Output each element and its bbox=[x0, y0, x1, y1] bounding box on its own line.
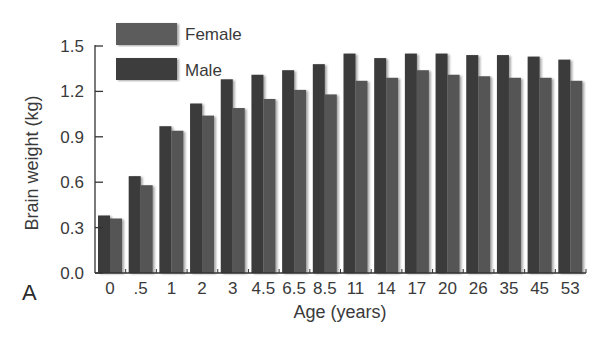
bar-male bbox=[129, 176, 141, 273]
bar-male bbox=[98, 215, 110, 273]
legend-label-female: Female bbox=[185, 25, 242, 44]
bar-male bbox=[313, 64, 325, 273]
bar-female bbox=[570, 81, 582, 273]
x-tick-label: 53 bbox=[561, 279, 580, 298]
x-tick-label: 26 bbox=[469, 279, 488, 298]
y-ticks: 0.00.30.60.91.21.5 bbox=[60, 37, 103, 283]
bar-series bbox=[98, 54, 582, 273]
bar-female bbox=[202, 116, 214, 273]
bar-male bbox=[190, 104, 202, 273]
bar-female bbox=[141, 185, 153, 273]
x-tick-label: 35 bbox=[499, 279, 518, 298]
x-tick-label: 11 bbox=[347, 279, 365, 298]
panel-label: A bbox=[22, 280, 37, 305]
bar-female bbox=[356, 81, 368, 273]
bar-male bbox=[466, 55, 478, 273]
bar-male bbox=[251, 75, 263, 273]
bar-female bbox=[263, 99, 275, 273]
x-tick-label: 1 bbox=[167, 279, 176, 298]
bar-male bbox=[405, 54, 417, 273]
legend-swatch-male bbox=[116, 58, 177, 80]
x-tick-label: 20 bbox=[438, 279, 457, 298]
y-tick-label: 0.3 bbox=[60, 219, 84, 238]
bar-male bbox=[558, 60, 570, 273]
y-tick-label: 1.5 bbox=[60, 37, 84, 56]
x-tick-label: 8.5 bbox=[313, 279, 337, 298]
bar-female bbox=[509, 78, 521, 273]
x-tick-label: 17 bbox=[407, 279, 426, 298]
y-axis-title: Brain weight (kg) bbox=[22, 95, 42, 230]
bar-female bbox=[448, 75, 460, 273]
bar-male bbox=[159, 126, 171, 273]
x-tick-label: .5 bbox=[134, 279, 148, 298]
y-tick-label: 0.9 bbox=[60, 128, 84, 147]
x-axis-title: Age (years) bbox=[293, 302, 386, 322]
bar-male bbox=[436, 54, 448, 273]
x-tick-label: 6.5 bbox=[282, 279, 306, 298]
bar-female bbox=[417, 70, 429, 273]
y-tick-label: 0.0 bbox=[60, 264, 84, 283]
bar-male bbox=[374, 58, 386, 273]
bar-male bbox=[344, 54, 356, 273]
y-tick-label: 1.2 bbox=[60, 82, 84, 101]
legend: Female Male bbox=[116, 23, 242, 80]
brain-weight-chart: Female Male 0.00.30.60.91.21.5 0.51234.5… bbox=[0, 0, 612, 340]
bar-male bbox=[221, 79, 233, 273]
bar-female bbox=[386, 78, 398, 273]
bar-female bbox=[325, 94, 337, 273]
bar-female bbox=[110, 219, 122, 273]
x-tick-label: 0 bbox=[105, 279, 114, 298]
legend-swatch-female bbox=[116, 23, 177, 45]
bar-female bbox=[478, 76, 490, 273]
bar-female bbox=[171, 131, 183, 273]
x-tick-label: 14 bbox=[377, 279, 396, 298]
x-tick-label: 45 bbox=[530, 279, 549, 298]
x-tick-label: 4.5 bbox=[252, 279, 276, 298]
bar-male bbox=[528, 57, 540, 273]
x-tick-label: 3 bbox=[228, 279, 237, 298]
x-tick-label: 2 bbox=[197, 279, 206, 298]
bar-female bbox=[540, 78, 552, 273]
bar-female bbox=[233, 108, 245, 273]
bar-female bbox=[294, 90, 306, 273]
legend-label-male: Male bbox=[185, 61, 222, 80]
y-tick-label: 0.6 bbox=[60, 173, 84, 192]
bar-male bbox=[282, 70, 294, 273]
bar-male bbox=[497, 55, 509, 273]
